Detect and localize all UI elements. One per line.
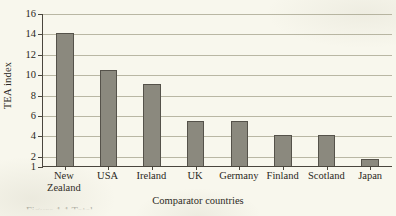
- bar: [361, 159, 378, 166]
- bar: [274, 135, 291, 166]
- y-axis-tick-label: 1: [31, 162, 36, 173]
- x-axis-title-text: Comparator countries: [152, 195, 243, 206]
- y-axis-tick-label: 6: [31, 111, 36, 122]
- y-axis-title-text: TEA index: [3, 61, 14, 109]
- bar: [56, 33, 73, 166]
- y-axis-tick-label: 2: [31, 151, 36, 162]
- x-axis-tick-label: USA: [86, 170, 130, 182]
- x-axis-title: Comparator countries: [0, 195, 396, 206]
- bar-chart-figure: TEA index 1246810121416 NewZealandUSAIre…: [0, 0, 396, 216]
- y-axis-title: TEA index: [0, 0, 17, 170]
- y-axis-tick-label: 8: [31, 90, 36, 101]
- y-axis-tick-label: 10: [26, 70, 37, 81]
- y-axis-tick: [38, 167, 43, 168]
- bar-series: [43, 14, 392, 166]
- x-axis-tick-label: UK: [173, 170, 217, 182]
- bar: [318, 135, 335, 166]
- x-axis-tick-label: Japan: [348, 170, 392, 182]
- bar: [231, 121, 248, 166]
- bar: [143, 84, 160, 166]
- x-axis-tick-label: Ireland: [130, 170, 174, 182]
- x-axis-tick-label: Germany: [217, 170, 261, 182]
- bar: [187, 121, 204, 166]
- bar: [100, 70, 117, 166]
- x-axis-tick-label: NewZealand: [42, 170, 86, 193]
- y-axis-tick-label: 4: [31, 131, 36, 142]
- x-axis-tick-labels: NewZealandUSAIrelandUKGermanyFinlandScot…: [42, 170, 392, 196]
- x-axis-tick-label: Scotland: [305, 170, 349, 182]
- x-axis-tick-label: Finland: [261, 170, 305, 182]
- y-axis-tick-label: 16: [26, 9, 37, 20]
- y-axis-tick-label: 12: [26, 49, 37, 60]
- plot-area: 1246810121416: [42, 14, 392, 167]
- figure-caption: Figure 1.1 Total: [26, 205, 93, 216]
- y-axis-tick-label: 14: [26, 29, 37, 40]
